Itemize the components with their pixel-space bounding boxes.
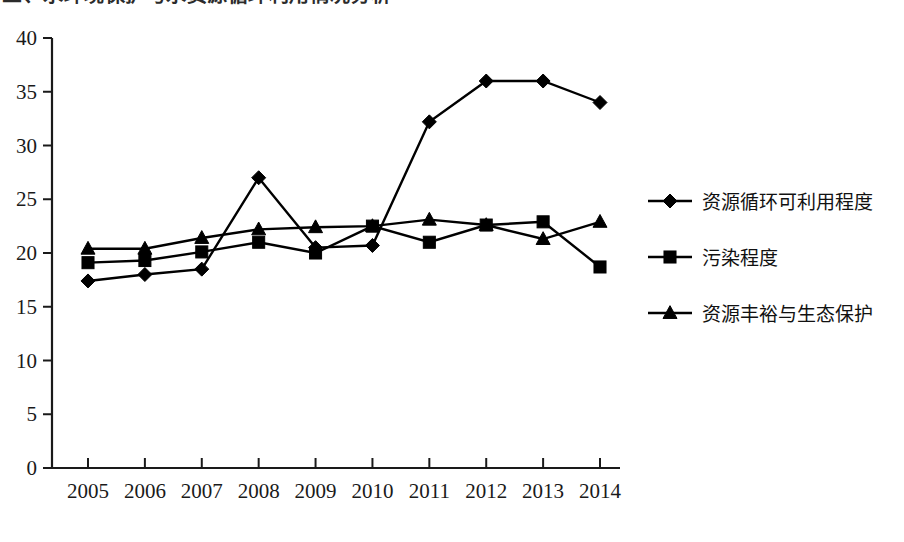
diamond-marker-icon: [536, 74, 550, 88]
triangle-marker-icon: [422, 212, 436, 225]
square-marker-icon: [664, 251, 676, 263]
series-data-markers: [81, 74, 607, 288]
chart-legend: 资源循环可利用程度污染程度资源丰裕与生态保护: [648, 191, 873, 325]
x-tick-label: 2007: [181, 479, 223, 503]
x-tick-label: 2008: [238, 479, 280, 503]
y-tick-label: 20: [16, 241, 37, 265]
square-marker-icon: [196, 246, 208, 258]
chart-page: 三、水环境保护与水资源循环利用情况分析 0510152025303540 200…: [0, 0, 904, 542]
y-tick-label: 35: [16, 80, 37, 104]
cropped-caption-text: 三、水环境保护与水资源循环利用情况分析: [0, 0, 392, 1]
square-marker-icon: [139, 255, 151, 267]
diamond-marker-icon: [138, 268, 152, 282]
square-marker-icon: [310, 247, 322, 259]
y-axis-tick-labels: 0510152025303540: [16, 26, 37, 480]
square-marker-icon: [423, 236, 435, 248]
y-tick-label: 25: [16, 187, 37, 211]
x-tick-label: 2009: [295, 479, 337, 503]
y-axis-tick-marks: [43, 38, 52, 468]
x-tick-label: 2005: [67, 479, 109, 503]
triangle-marker-icon: [593, 214, 607, 227]
series-line-0: [88, 81, 600, 281]
series-polylines: [88, 81, 600, 281]
x-tick-label: 2012: [465, 479, 507, 503]
x-tick-label: 2010: [351, 479, 393, 503]
x-tick-label: 2006: [124, 479, 166, 503]
chart-canvas: 0510152025303540 20052006200720082009201…: [0, 18, 904, 542]
y-tick-label: 5: [27, 402, 38, 426]
legend-label-1: 污染程度: [702, 247, 778, 269]
y-tick-label: 15: [16, 295, 37, 319]
diamond-marker-icon: [663, 194, 677, 208]
x-tick-label: 2011: [409, 479, 450, 503]
diamond-marker-icon: [365, 238, 379, 252]
x-axis-tick-labels: 2005200620072008200920102011201220132014: [67, 479, 622, 503]
line-chart: 0510152025303540 20052006200720082009201…: [0, 18, 904, 542]
square-marker-icon: [537, 216, 549, 228]
legend-label-2: 资源丰裕与生态保护: [702, 303, 873, 325]
x-axis-tick-marks: [88, 458, 600, 468]
y-tick-label: 10: [16, 349, 37, 373]
square-marker-icon: [594, 261, 606, 273]
diamond-marker-icon: [593, 96, 607, 110]
y-tick-label: 30: [16, 134, 37, 158]
y-tick-label: 0: [27, 456, 38, 480]
axis-lines: [52, 38, 620, 468]
y-tick-label: 40: [16, 26, 37, 50]
diamond-marker-icon: [195, 262, 209, 276]
chart-axes: [52, 38, 620, 468]
x-tick-label: 2014: [579, 479, 622, 503]
cropped-caption-strip: 三、水环境保护与水资源循环利用情况分析: [0, 0, 904, 12]
square-marker-icon: [253, 236, 265, 248]
square-marker-icon: [82, 257, 94, 269]
legend-label-0: 资源循环可利用程度: [702, 191, 873, 213]
x-tick-label: 2013: [522, 479, 564, 503]
diamond-marker-icon: [81, 274, 95, 288]
